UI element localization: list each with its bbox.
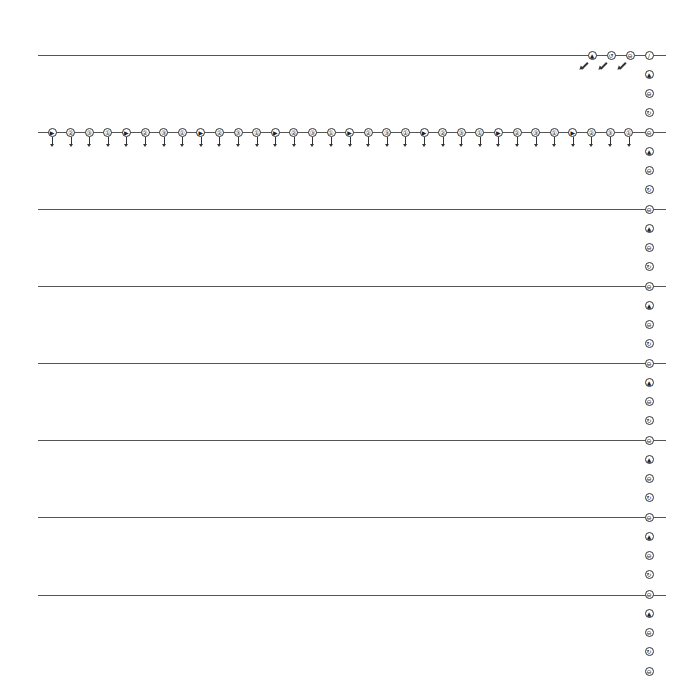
down-arrow-icon — [126, 137, 127, 145]
circle-node: ⊖ — [645, 474, 654, 483]
circle-node: ▶ — [494, 128, 503, 137]
down-arrow-icon — [443, 137, 444, 145]
down-arrow-icon — [201, 137, 202, 145]
circle-node: ① — [550, 128, 559, 137]
circle-node: ▲ — [645, 224, 654, 233]
circle-node: ① — [252, 128, 261, 137]
circle-node: ⊖ — [645, 359, 654, 368]
circle-node: ⊖ — [645, 89, 654, 98]
circle-node: / — [645, 51, 654, 60]
horizontal-line — [38, 595, 666, 596]
down-arrow-icon — [629, 137, 630, 145]
circle-node: ▲ — [645, 301, 654, 310]
horizontal-line — [38, 517, 666, 518]
circle-node: ↻ — [645, 108, 654, 117]
circle-node: ▶ — [271, 128, 280, 137]
circle-node: ↻ — [645, 493, 654, 502]
down-arrow-icon — [145, 137, 146, 145]
circle-node: ③ — [159, 128, 168, 137]
down-arrow-icon — [498, 137, 499, 145]
circle-node: ⊖ — [645, 320, 654, 329]
down-arrow-icon — [536, 137, 537, 145]
circle-node: ① — [103, 128, 112, 137]
circle-node: ③ — [531, 128, 540, 137]
horizontal-line — [38, 209, 666, 210]
horizontal-line — [38, 55, 666, 56]
diagonal-arrow-icon — [619, 62, 626, 69]
down-arrow-icon — [71, 137, 72, 145]
down-arrow-icon — [573, 137, 574, 145]
circle-node: ↻ — [645, 185, 654, 194]
circle-node: ⊖ — [626, 51, 635, 60]
circle-node: ③ — [606, 128, 615, 137]
down-arrow-icon — [164, 137, 165, 145]
circle-node: ▲ — [645, 532, 654, 541]
circle-node: ① — [178, 128, 187, 137]
circle-node: ③ — [308, 128, 317, 137]
circle-node: ↺ — [607, 51, 616, 60]
circle-node: ③ — [85, 128, 94, 137]
circle-node: ▶ — [420, 128, 429, 137]
circle-node: ⊖ — [645, 128, 654, 137]
down-arrow-icon — [257, 137, 258, 145]
circle-node: ① — [624, 128, 633, 137]
down-arrow-icon — [350, 137, 351, 145]
down-arrow-icon — [610, 137, 611, 145]
circle-node: ① — [475, 128, 484, 137]
circle-node: ↻ — [645, 416, 654, 425]
down-arrow-icon — [517, 137, 518, 145]
down-arrow-icon — [424, 137, 425, 145]
circle-node: ⊖ — [645, 397, 654, 406]
circle-node: ② — [587, 128, 596, 137]
circle-node: ▶ — [568, 128, 577, 137]
circle-node: ▲ — [645, 147, 654, 156]
horizontal-line — [38, 440, 666, 441]
circle-node: ▶ — [345, 128, 354, 137]
circle-node: ③ — [382, 128, 391, 137]
horizontal-line — [38, 286, 666, 287]
circle-node: ▲ — [645, 70, 654, 79]
diagonal-arrow-icon — [600, 62, 607, 69]
down-arrow-icon — [108, 137, 109, 145]
circle-node: ① — [327, 128, 336, 137]
circle-node: ② — [215, 128, 224, 137]
down-arrow-icon — [461, 137, 462, 145]
diagonal-arrow-icon — [581, 62, 588, 69]
down-arrow-icon — [182, 137, 183, 145]
circle-node: ↻ — [645, 647, 654, 656]
circle-node: ⊖ — [645, 551, 654, 560]
circle-node: ⊖ — [645, 590, 654, 599]
down-arrow-icon — [238, 137, 239, 145]
down-arrow-icon — [480, 137, 481, 145]
circle-node: ② — [364, 128, 373, 137]
down-arrow-icon — [89, 137, 90, 145]
circle-node: ↻ — [645, 262, 654, 271]
circle-node: ① — [401, 128, 410, 137]
down-arrow-icon — [405, 137, 406, 145]
circle-node: ⊖ — [645, 513, 654, 522]
circle-node: ↻ — [645, 339, 654, 348]
circle-node: ↻ — [645, 570, 654, 579]
circle-node: ② — [513, 128, 522, 137]
circle-node: ⊖ — [645, 166, 654, 175]
down-arrow-icon — [387, 137, 388, 145]
circle-node: ② — [438, 128, 447, 137]
circle-node: ⊖ — [645, 628, 654, 637]
circle-node: ③ — [234, 128, 243, 137]
horizontal-line — [38, 363, 666, 364]
circle-node: ▲ — [588, 51, 597, 60]
down-arrow-icon — [312, 137, 313, 145]
down-arrow-icon — [591, 137, 592, 145]
down-arrow-icon — [275, 137, 276, 145]
circle-node: ⊖ — [645, 243, 654, 252]
circle-node: ▲ — [645, 609, 654, 618]
circle-node: ▶ — [48, 128, 57, 137]
circle-node: ▶ — [122, 128, 131, 137]
down-arrow-icon — [52, 137, 53, 145]
down-arrow-icon — [331, 137, 332, 145]
down-arrow-icon — [368, 137, 369, 145]
circle-node: ⊖ — [645, 436, 654, 445]
circle-node: ⊖ — [645, 667, 654, 676]
circle-node: ② — [66, 128, 75, 137]
down-arrow-icon — [294, 137, 295, 145]
